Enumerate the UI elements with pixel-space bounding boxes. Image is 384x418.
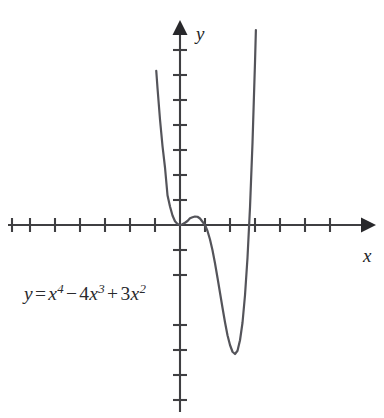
equation-minus-sign: −: [64, 283, 79, 304]
equation-term2-coefficient: 4: [79, 283, 89, 304]
function-curve: [156, 30, 256, 354]
coordinate-plot: y x: [0, 0, 384, 418]
equation-term1-base: x: [48, 283, 57, 304]
equation-term3-exponent: 2: [139, 282, 146, 296]
equation-annotation: y=x4−4x3+3x2: [24, 283, 146, 305]
equation-plus-sign: +: [105, 283, 120, 304]
equation-term1-exponent: 4: [57, 282, 64, 296]
y-axis-arrow-icon: [173, 20, 188, 35]
equation-equals-sign: =: [33, 283, 48, 304]
equation-term3-coefficient: 3: [120, 283, 130, 304]
x-axis-arrow-icon: [361, 218, 376, 233]
equation-term2-base: x: [89, 283, 98, 304]
equation-lhs: y: [24, 283, 33, 304]
graph-figure: y x y=x4−4x3+3x2: [0, 0, 384, 418]
x-axis-label: x: [362, 245, 372, 266]
y-axis-label: y: [194, 23, 205, 44]
